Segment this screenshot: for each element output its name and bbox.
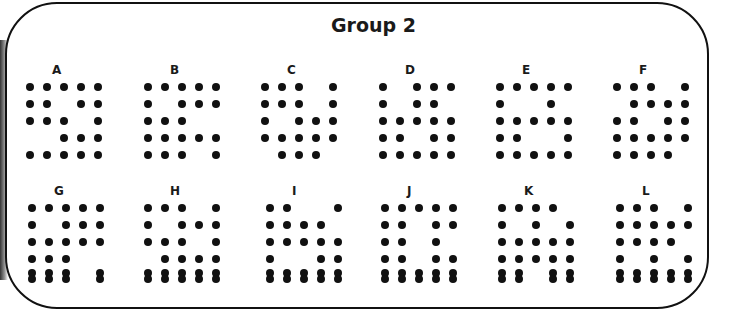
dot [616,275,624,283]
dot [532,221,540,229]
dot [496,117,504,125]
dot [430,151,438,159]
dot [396,117,404,125]
dot [613,151,621,159]
dot [60,151,68,159]
dot [381,221,389,229]
dot [650,238,658,246]
dot [650,221,658,229]
dot [530,117,538,125]
dot [96,275,104,283]
dot [667,221,675,229]
dot [633,238,641,246]
dot [212,134,220,142]
dot [195,275,203,283]
dot [278,83,286,91]
dot [650,255,658,263]
dot [496,151,504,159]
dot [283,238,291,246]
dot [300,275,308,283]
dot [161,134,169,142]
dot [261,117,269,125]
dot [613,83,621,91]
dot [398,255,406,263]
dot [449,221,457,229]
dot [77,100,85,108]
dot [398,221,406,229]
dot [161,255,169,263]
dot [28,238,36,246]
dot [413,117,421,125]
dot [549,238,557,246]
dot [449,204,457,212]
dot [566,238,574,246]
dot [630,134,638,142]
dot [549,255,557,263]
panel-d: D [379,63,469,173]
dot [266,255,274,263]
dot [28,275,36,283]
dot [430,134,438,142]
dot [613,134,621,142]
panel-b: B [144,63,234,173]
dot [144,275,152,283]
dot [178,134,186,142]
dot [650,204,658,212]
dot [547,83,555,91]
dot [77,134,85,142]
dot [667,275,675,283]
dot [430,100,438,108]
panel-label: F [603,63,729,77]
dot [77,151,85,159]
dot [45,275,53,283]
dot [630,151,638,159]
dot [43,100,51,108]
dot [261,83,269,91]
panel-a: A [26,63,116,173]
dot [498,204,506,212]
dot [144,117,152,125]
dot [447,83,455,91]
dot [496,134,504,142]
dot [379,117,387,125]
dot [79,221,87,229]
dot [432,238,440,246]
dot [432,221,440,229]
dot [62,204,70,212]
dot [566,221,574,229]
dot [178,221,186,229]
dot [513,117,521,125]
dot [681,134,689,142]
dot [278,151,286,159]
dot [212,83,220,91]
dot [94,151,102,159]
dot [28,221,36,229]
dot [266,221,274,229]
dot [278,100,286,108]
dot [266,275,274,283]
panel-c: C [261,63,351,173]
dot [415,275,423,283]
dot [513,134,521,142]
dot [28,204,36,212]
dot [178,117,186,125]
dot [62,221,70,229]
dot [178,204,186,212]
dot [684,255,692,263]
dot [295,151,303,159]
dot [178,275,186,283]
panel-label: K [488,184,614,198]
panel-g: G [28,184,118,294]
dot [283,204,291,212]
dot [334,238,342,246]
dot [633,221,641,229]
dot [283,221,291,229]
dot [449,275,457,283]
dot [300,221,308,229]
dot [195,255,203,263]
dot [161,117,169,125]
dot [300,238,308,246]
dot [161,83,169,91]
dot [212,255,220,263]
dot [334,255,342,263]
